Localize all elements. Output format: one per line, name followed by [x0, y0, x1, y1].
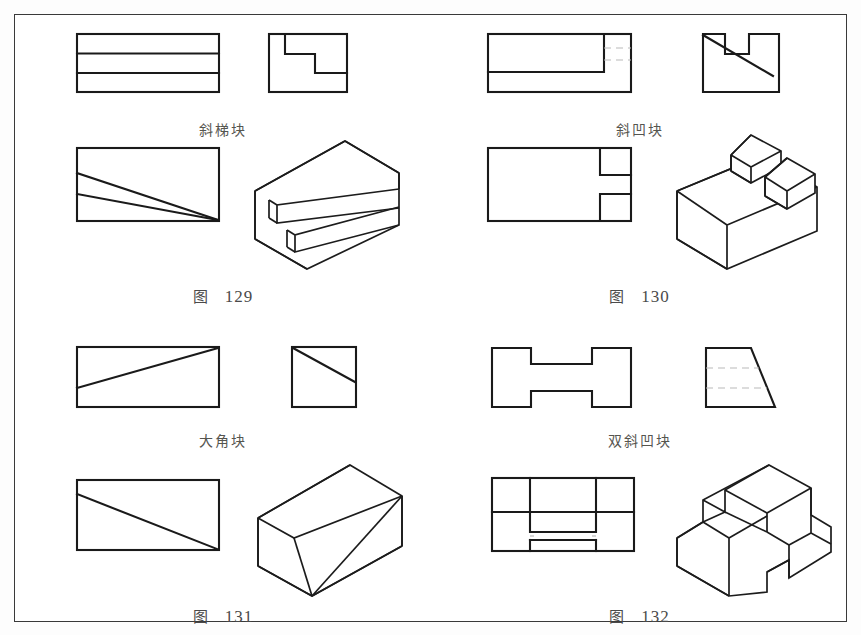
- fig131-top-view: [75, 345, 225, 413]
- fig129-top-view: [75, 32, 225, 98]
- fig129-isometric-view: [247, 133, 427, 273]
- fig129-caption: 图129: [15, 285, 431, 307]
- fig132-isometric-view: [659, 460, 849, 605]
- fig132-top-view: [489, 345, 639, 413]
- fig130-front-view: [486, 146, 641, 231]
- fig131-caption-number: 131: [225, 607, 254, 626]
- fig131-side-view: [290, 345, 368, 413]
- figure-131-block: 大角块 图131: [15, 320, 431, 620]
- fig131-caption: 图131: [15, 605, 431, 627]
- fig129-name-label: 斜梯块: [15, 119, 431, 139]
- fig132-caption: 图132: [431, 605, 848, 627]
- fig131-front-view: [75, 478, 225, 558]
- fig129-side-view: [267, 32, 357, 98]
- fig130-caption: 图130: [431, 285, 848, 307]
- fig129-front-view: [75, 146, 225, 231]
- fig132-caption-cjk: 图: [609, 608, 625, 626]
- figure-132-block: 双斜凹块 图132: [431, 320, 848, 620]
- drawing-page: 斜梯块 图129: [0, 0, 861, 635]
- fig131-name-label: 大角块: [15, 430, 431, 450]
- fig130-isometric-view: [669, 133, 849, 273]
- fig131-isometric-view: [250, 460, 430, 600]
- fig131-caption-cjk: 图: [193, 608, 209, 626]
- fig130-top-view: [486, 32, 641, 98]
- fig129-caption-number: 129: [225, 287, 254, 306]
- fig129-caption-cjk: 图: [193, 288, 209, 306]
- fig132-caption-number: 132: [641, 607, 670, 626]
- figure-130-block: 斜凹块 图130: [431, 15, 848, 305]
- figure-129-block: 斜梯块 图129: [15, 15, 431, 305]
- fig130-name-label: 斜凹块: [431, 119, 848, 139]
- fig130-caption-cjk: 图: [609, 288, 625, 306]
- fig130-caption-number: 130: [641, 287, 670, 306]
- page-border-frame: 斜梯块 图129: [14, 14, 847, 622]
- fig132-side-view: [703, 345, 788, 413]
- fig130-side-view: [701, 32, 791, 98]
- fig132-name-label: 双斜凹块: [431, 430, 848, 450]
- fig132-front-view: [489, 475, 641, 557]
